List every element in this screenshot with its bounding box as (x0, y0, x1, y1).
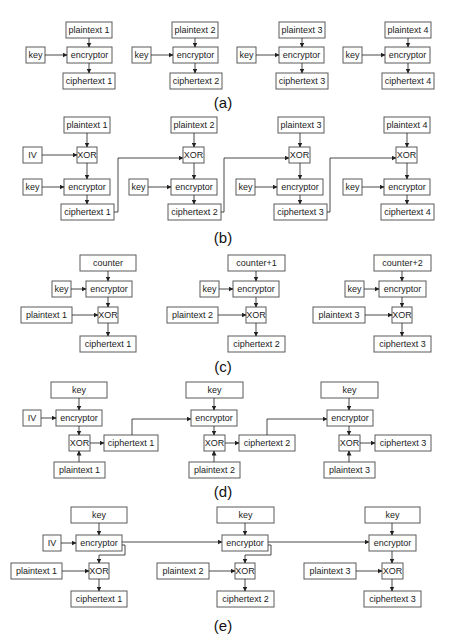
counter-label: counter (93, 258, 123, 268)
ciphertext-label: ciphertext 3 (369, 594, 416, 604)
ciphertext-label: ciphertext 2 (173, 76, 220, 86)
cbc-block-1: plaintext 1 IV XOR key encryptor ciphert… (23, 117, 183, 220)
key-label: key (25, 182, 40, 192)
ciphertext-label: ciphertext 3 (277, 207, 324, 217)
xor-label: XOR (383, 566, 403, 576)
key-label: key (342, 385, 357, 395)
key-label: key (134, 50, 149, 60)
ofb-block-3: key encryptor plaintext 3 XOR ciphertext… (304, 507, 421, 607)
plaintext-label: plaintext 3 (280, 120, 321, 130)
ciphertext-label: ciphertext 2 (222, 594, 269, 604)
ctr-block-2: counter+1 key encryptor plaintext 2 XOR … (167, 255, 285, 352)
plaintext-label: plaintext 3 (281, 25, 322, 35)
encryptor-label: encryptor (226, 538, 264, 548)
key-label: key (238, 510, 253, 520)
plaintext-label: plaintext 1 (26, 310, 67, 320)
plaintext-label: plaintext 4 (386, 120, 427, 130)
ciphertext-label: ciphertext 3 (279, 76, 326, 86)
plaintext-label: plaintext 3 (329, 465, 370, 475)
plaintext-label: plaintext 4 (387, 25, 428, 35)
xor-label: XOR (290, 150, 310, 160)
ctr-block-1: counter key encryptor plaintext 1 XOR ci… (21, 255, 136, 352)
ciphertext-label: ciphertext 4 (385, 76, 432, 86)
xor-label: XOR (89, 566, 109, 576)
plaintext-label: plaintext 1 (68, 25, 109, 35)
key-label: key (72, 385, 87, 395)
key-label: key (347, 284, 362, 294)
xor-label: XOR (397, 150, 417, 160)
ecb-block-2: plaintext 2 key encryptor ciphertext 2 (132, 22, 222, 89)
key-label: key (345, 182, 360, 192)
cfb-block-3: key encryptor XOR ciphertext 3 plaintext… (321, 382, 431, 478)
ciphertext-label: ciphertext 3 (379, 339, 426, 349)
encryptor-label: encryptor (60, 413, 98, 423)
encryptor-label: encryptor (175, 182, 213, 192)
caption-a: (a) (214, 94, 232, 111)
encryptor-label: encryptor (195, 413, 233, 423)
xor-label: XOR (246, 310, 266, 320)
encryptor-label: encryptor (374, 538, 412, 548)
panel-b: plaintext 1 IV XOR key encryptor ciphert… (23, 117, 434, 246)
plaintext-label: plaintext 3 (318, 310, 359, 320)
xor-label: XOR (184, 150, 204, 160)
plaintext-label: plaintext 3 (309, 566, 350, 576)
cfb-block-2: key encryptor XOR ciphertext 2 plaintext… (186, 382, 327, 478)
xor-label: XOR (340, 438, 360, 448)
ciphertext-label: ciphertext 4 (384, 207, 431, 217)
xor-label: XOR (392, 310, 412, 320)
plaintext-label: plaintext 2 (173, 120, 214, 130)
plaintext-label: plaintext 2 (172, 310, 213, 320)
key-label: key (131, 182, 146, 192)
key-label: key (385, 510, 400, 520)
iv-label: IV (28, 150, 37, 160)
ciphertext-label: ciphertext 2 (233, 339, 280, 349)
encryptor-label: encryptor (68, 182, 106, 192)
plaintext-label: plaintext 1 (16, 566, 57, 576)
encryptor-label: encryptor (384, 284, 422, 294)
encryptor-label: encryptor (80, 538, 118, 548)
encryptor-label: encryptor (237, 284, 275, 294)
xor-label: XOR (205, 438, 225, 448)
ecb-block-4: plaintext 4 key encryptor ciphertext 4 (343, 22, 434, 89)
xor-label: XOR (70, 438, 90, 448)
cbc-block-2: plaintext 2 XOR key encryptor ciphertext… (129, 117, 289, 220)
caption-d: (d) (214, 483, 232, 500)
key-label: key (28, 50, 43, 60)
encryptor-label: encryptor (90, 284, 128, 294)
ciphertext-label: ciphertext 1 (76, 594, 123, 604)
encryptor-label: encryptor (177, 50, 215, 60)
key-label: key (202, 284, 217, 294)
plaintext-label: plaintext 2 (174, 25, 215, 35)
panel-a: plaintext 1 key encryptor ciphertext 1 p… (26, 22, 434, 111)
ciphertext-label: ciphertext 2 (171, 207, 218, 217)
ciphertext-label: ciphertext 1 (64, 207, 111, 217)
encryptor-label: encryptor (388, 182, 426, 192)
ctr-block-3: counter+2 key encryptor plaintext 3 XOR … (313, 255, 431, 352)
encryptor-label: encryptor (281, 182, 319, 192)
xor-label: XOR (77, 150, 97, 160)
panel-e: key IV encryptor plaintext 1 XOR ciphert… (11, 507, 421, 634)
iv-label: IV (28, 413, 37, 423)
key-label: key (239, 50, 254, 60)
panel-d: key IV encryptor XOR ciphertext 1 plaint… (23, 382, 431, 500)
key-label: key (345, 50, 360, 60)
plaintext-label: plaintext 2 (194, 465, 235, 475)
counter-label: counter+2 (382, 258, 422, 268)
modes-diagram: plaintext 1 key encryptor ciphertext 1 p… (0, 0, 450, 643)
encryptor-label: encryptor (283, 50, 321, 60)
encryptor-label: encryptor (71, 50, 109, 60)
ecb-block-1: plaintext 1 key encryptor ciphertext 1 (26, 22, 115, 89)
ciphertext-label: ciphertext 1 (85, 339, 132, 349)
panel-c: counter key encryptor plaintext 1 XOR ci… (21, 255, 431, 375)
ciphertext-label: ciphertext 1 (108, 438, 155, 448)
caption-b: (b) (214, 229, 232, 246)
ofb-block-2: key encryptor plaintext 2 XOR ciphertext… (157, 507, 369, 607)
plaintext-label: plaintext 2 (162, 566, 203, 576)
cbc-block-3: plaintext 3 XOR key encryptor ciphertext… (236, 117, 396, 220)
counter-label: counter+1 (236, 258, 276, 268)
plaintext-label: plaintext 1 (66, 120, 107, 130)
key-label: key (207, 385, 222, 395)
cfb-block-1: key IV encryptor XOR ciphertext 1 plaint… (23, 382, 191, 478)
caption-e: (e) (214, 617, 232, 634)
xor-label: XOR (98, 310, 118, 320)
